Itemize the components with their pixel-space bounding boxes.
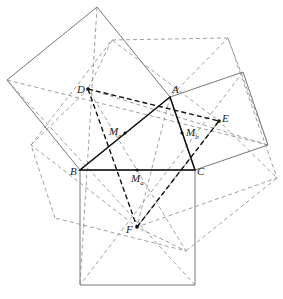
label-ma-main: M — [131, 172, 140, 184]
label-ma-sub: a — [140, 179, 144, 187]
dashed-construction — [7, 7, 277, 285]
geometry-figure: A B C D E F Ma Mb Mc — [0, 0, 283, 299]
points — [86, 87, 221, 229]
label-mc-sub: c — [118, 132, 121, 140]
label-f: F — [126, 224, 133, 235]
label-a: A — [172, 84, 179, 95]
label-ma: Ma — [131, 173, 144, 187]
triangle-abc — [80, 97, 195, 170]
label-mc: Mc — [109, 126, 121, 140]
outer-squares — [7, 7, 268, 285]
label-mb: Mb — [186, 127, 199, 141]
label-mc-main: M — [109, 125, 118, 137]
figure-canvas — [0, 0, 283, 299]
label-mb-sub: b — [195, 133, 199, 141]
label-mb-main: M — [186, 126, 195, 138]
label-d: D — [77, 84, 85, 95]
label-c: C — [197, 166, 204, 177]
label-e: E — [222, 113, 229, 124]
label-b: B — [70, 166, 77, 177]
